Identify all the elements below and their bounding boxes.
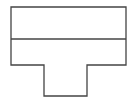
- diagram-canvas: [0, 0, 135, 106]
- t-shape-diagram: [0, 0, 135, 106]
- t-shape-outline: [11, 7, 126, 96]
